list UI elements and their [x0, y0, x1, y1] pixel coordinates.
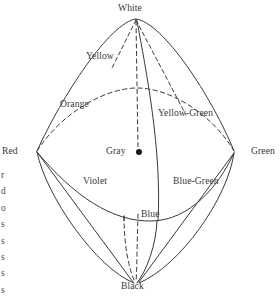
label-red: Red [2, 146, 18, 156]
label-orange: Orange [60, 99, 89, 109]
axis-gray-black-dashed-right [136, 214, 138, 282]
label-gray: Gray [106, 146, 126, 156]
label-black: Black [121, 281, 144, 291]
color-solid-drawing [0, 0, 280, 298]
edge-white-blue-front [137, 21, 159, 221]
edge-white-yellow-dashed [111, 20, 136, 70]
label-white: White [118, 3, 142, 13]
label-violet: Violet [83, 176, 107, 186]
edge-blue-black-front [137, 221, 157, 283]
label-yellow: Yellow [86, 51, 114, 61]
axis-white-gray-dashed [136, 21, 138, 148]
label-blue-green: Blue-Green [173, 176, 219, 186]
label-yellow-green: Yellow-Green [158, 108, 213, 118]
color-solid-figure: r d o s s s s s [0, 0, 280, 298]
edge-red-black [37, 152, 133, 282]
equator-front-arc [37, 152, 234, 221]
gray-center-dot [136, 149, 142, 155]
label-blue: Blue [141, 209, 160, 219]
label-green: Green [251, 146, 275, 156]
